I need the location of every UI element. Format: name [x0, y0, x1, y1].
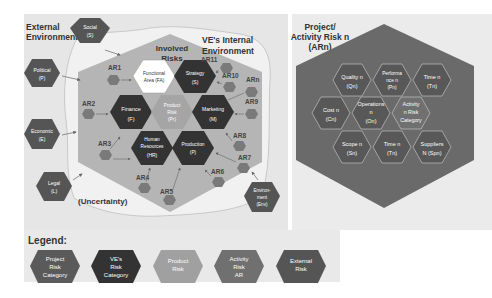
- svg-text:Risk: Risk: [167, 110, 177, 115]
- svg-text:AR6: AR6: [211, 168, 224, 175]
- svg-text:Risk: Risk: [233, 264, 246, 270]
- svg-text:n: n: [369, 109, 372, 115]
- svg-text:AR7: AR7: [238, 154, 251, 161]
- svg-text:(P): (P): [190, 150, 197, 155]
- legend-product-risk: Product Risk: [153, 250, 203, 283]
- svg-text:External: External: [290, 258, 312, 264]
- svg-text:AR5: AR5: [160, 188, 173, 195]
- svg-text:VE's: VE's: [110, 256, 122, 262]
- svg-text:Time n: Time n: [384, 141, 401, 147]
- svg-text:(Pn): (Pn): [387, 85, 396, 90]
- svg-text:Quality n: Quality n: [341, 74, 363, 80]
- legend-ve-risk-category: VE's Risk Category: [91, 250, 141, 283]
- svg-text:AR9: AR9: [245, 98, 258, 105]
- svg-text:Human: Human: [144, 137, 160, 142]
- svg-text:Activity: Activity: [229, 256, 248, 262]
- svg-text:(E): (E): [39, 136, 46, 142]
- legend-external-risk: External Risk: [276, 250, 326, 283]
- svg-text:Cost n: Cost n: [323, 107, 339, 113]
- svg-text:(S): (S): [192, 79, 199, 85]
- project-activity-risk-title-2: Activity Risk n: [291, 32, 350, 42]
- svg-text:AR11: AR11: [201, 56, 218, 63]
- svg-text:Risk: Risk: [172, 266, 185, 272]
- svg-text:Resources: Resources: [141, 144, 165, 149]
- svg-text:Scope n: Scope n: [342, 141, 362, 147]
- svg-text:Category: Category: [400, 117, 422, 123]
- svg-text:AR10: AR10: [222, 72, 239, 79]
- svg-text:Social: Social: [83, 24, 97, 30]
- svg-text:ARn: ARn: [246, 76, 259, 83]
- svg-text:(Cn): (Cn): [326, 116, 337, 122]
- svg-text:n Risk: n Risk: [404, 109, 419, 115]
- external-environment-title: External: [26, 22, 60, 32]
- svg-text:Area (FA): Area (FA): [144, 78, 165, 83]
- project-activity-risk-title: Project/: [304, 22, 336, 32]
- svg-text:Product: Product: [168, 258, 189, 264]
- svg-text:Political: Political: [33, 67, 50, 73]
- svg-text:(Tn): (Tn): [387, 150, 397, 156]
- involved-risks-label: Involved: [156, 44, 189, 53]
- svg-text:(Pr): (Pr): [168, 117, 176, 122]
- svg-text:Production: Production: [182, 142, 205, 147]
- svg-text:Time n: Time n: [424, 74, 441, 80]
- svg-text:(Qn): (Qn): [347, 83, 358, 89]
- svg-text:Strategy: Strategy: [186, 70, 205, 76]
- external-risk-political[interactable]: Political (P): [24, 59, 60, 87]
- svg-text:(Env): (Env): [257, 202, 268, 207]
- svg-text:Economic: Economic: [31, 128, 53, 134]
- svg-text:(HR): (HR): [147, 152, 158, 158]
- svg-text:Environ-: Environ-: [253, 188, 271, 193]
- external-risk-legal[interactable]: Legal (L): [36, 172, 72, 201]
- svg-text:AR: AR: [235, 272, 244, 278]
- svg-text:ment: ment: [257, 195, 268, 200]
- svg-text:Operations: Operations: [358, 101, 385, 107]
- svg-text:Product: Product: [164, 103, 181, 108]
- svg-text:(M): (M): [209, 116, 217, 122]
- svg-text:Functional: Functional: [143, 71, 165, 76]
- svg-text:(S): (S): [87, 32, 94, 38]
- internal-environment-title: VE's Internal: [202, 35, 253, 45]
- legend-activity-risk: Activity Risk AR: [214, 250, 264, 283]
- svg-text:AR3: AR3: [98, 140, 111, 147]
- svg-text:Marketing: Marketing: [202, 106, 224, 112]
- svg-text:Risk: Risk: [49, 264, 62, 270]
- external-environment-title-2: Environment: [26, 32, 78, 42]
- svg-text:N (Spn): N (Spn): [423, 150, 442, 156]
- svg-text:(On): (On): [366, 118, 377, 124]
- svg-text:AR1: AR1: [108, 64, 121, 71]
- svg-text:Finance: Finance: [121, 106, 141, 112]
- svg-text:Performa: Performa: [382, 71, 402, 76]
- svg-text:Activity: Activity: [403, 101, 420, 107]
- uncertainty-label: (Uncertainty): [78, 197, 128, 206]
- external-risk-economic[interactable]: Economic (E): [24, 119, 60, 149]
- svg-text:(Tn): (Tn): [427, 83, 437, 89]
- project-activity-risk-title-3: (ARn): [308, 42, 331, 52]
- svg-text:(F): (F): [127, 116, 134, 122]
- internal-environment-title-2: Environment: [202, 46, 254, 56]
- legend-project-risk-category: Project Risk Category: [30, 250, 80, 283]
- svg-text:(P): (P): [39, 75, 46, 81]
- svg-text:Legal: Legal: [48, 180, 60, 186]
- svg-text:Project: Project: [46, 256, 65, 262]
- svg-text:Category: Category: [43, 272, 67, 278]
- svg-text:Risk: Risk: [295, 266, 308, 272]
- svg-text:Category: Category: [104, 272, 128, 278]
- legend-title: Legend:: [28, 235, 67, 246]
- svg-text:Risk: Risk: [110, 264, 123, 270]
- svg-text:nce n: nce n: [386, 78, 398, 83]
- svg-text:AR8: AR8: [233, 132, 246, 139]
- svg-text:(L): (L): [51, 188, 57, 194]
- svg-text:Suppliers: Suppliers: [421, 141, 444, 147]
- svg-text:AR2: AR2: [82, 100, 95, 107]
- svg-text:(Sn): (Sn): [347, 150, 358, 156]
- diagram-canvas: External Environment VE's Internal Envir…: [0, 0, 492, 298]
